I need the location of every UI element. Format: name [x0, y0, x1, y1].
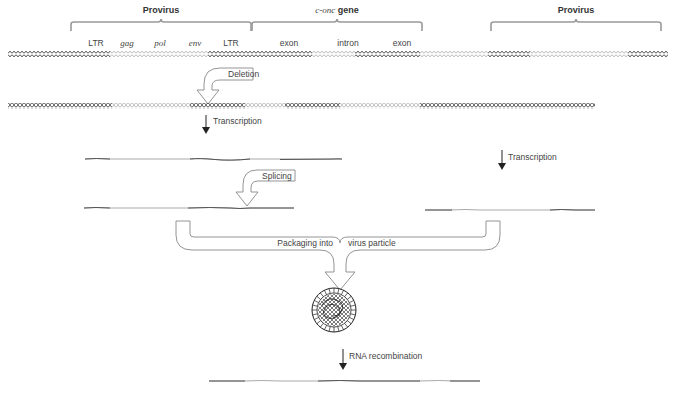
dna-segment-dark [355, 51, 420, 57]
region-label-LTR: LTR [88, 38, 103, 48]
region-label-exon: exon [393, 38, 412, 48]
region-label-gag: gag [120, 38, 134, 48]
splicing-label: Splicing [262, 171, 292, 181]
rna-recombination-arrow: RNA recombination [339, 349, 423, 370]
packaging-label-a: Packaging into [277, 238, 333, 248]
host-dna-with-provirus [8, 51, 668, 57]
dna-segment-light [245, 103, 285, 109]
packaging-label-b: virus particle [348, 238, 396, 248]
dna-segment-dark [190, 103, 245, 109]
provirus-right-bracket [491, 19, 661, 31]
region-label-env: env [189, 38, 202, 48]
region-labels: LTRgagpolenvLTRexonintronexon [88, 38, 411, 48]
region-label-exon: exon [280, 38, 299, 48]
dna-segment-dark [8, 51, 110, 57]
dna-segment-dark [8, 103, 112, 109]
rna-recombination-label: RNA recombination [349, 351, 423, 361]
packaging-arrow: Packaging into virus particle [176, 221, 500, 290]
dna-segment-dark [420, 103, 595, 109]
dna-segment-light [340, 103, 420, 109]
transcription-left-label: Transcription [213, 116, 262, 126]
deletion-label: Deletion [228, 69, 259, 79]
dna-segment-dark [488, 51, 530, 57]
deletion-arrow: Deletion [197, 68, 259, 104]
region-label-intron: intron [337, 38, 359, 48]
transcription-arrow-left: Transcription [202, 115, 262, 134]
transcription-arrow-right: Transcription [498, 150, 557, 170]
region-label-pol: pol [153, 38, 166, 48]
provirus-left-label: Provirus [143, 5, 180, 15]
dna-segment-light [312, 51, 355, 57]
dna-segment-light [530, 51, 628, 57]
c-onc-gene-label: c-onc gene [315, 5, 359, 15]
dna-segment-dark [628, 51, 668, 57]
virus-particle [312, 288, 356, 332]
splicing-arrow: Splicing [236, 170, 295, 206]
recombined-dna [8, 103, 595, 109]
dna-segment-light [420, 51, 488, 57]
c-onc-gene-bracket [252, 19, 422, 31]
dna-segment-light [110, 51, 208, 57]
provirus-left-bracket [71, 19, 251, 31]
provirus-right-label: Provirus [558, 5, 595, 15]
transcription-right-label: Transcription [508, 152, 557, 162]
dna-segment-dark [208, 51, 312, 57]
gene-brackets [71, 19, 661, 31]
region-label-LTR: LTR [223, 38, 238, 48]
dna-segment-dark [285, 103, 340, 109]
dna-segment-light [112, 103, 190, 109]
retrovirus-transduction-diagram: Provirus c-onc gene Provirus LTRgagpolen… [0, 0, 675, 393]
